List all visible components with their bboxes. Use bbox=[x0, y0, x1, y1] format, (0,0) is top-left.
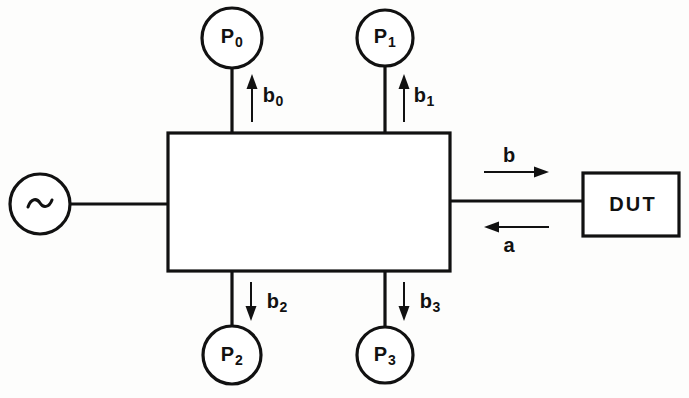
wave-label-b2-base: b bbox=[267, 290, 279, 312]
wave-label-a-base: a bbox=[503, 234, 514, 256]
detector-label-p2-sub: 2 bbox=[235, 353, 243, 369]
detector-label-p0: P0 bbox=[221, 25, 244, 50]
wave-label-b1-sub: 1 bbox=[426, 94, 434, 110]
detector-label-p3: P3 bbox=[374, 343, 397, 368]
detector-label-p2-base: P bbox=[221, 343, 235, 365]
wave-label-b3-base: b bbox=[420, 290, 432, 312]
wave-label-b0: b0 bbox=[263, 84, 284, 109]
wave-label-b3: b3 bbox=[420, 290, 441, 315]
wave-label-a: a bbox=[503, 234, 514, 257]
flow-arrow-b3 bbox=[399, 282, 410, 321]
flow-arrow-b0 bbox=[247, 74, 258, 122]
wave-label-b: b bbox=[503, 144, 515, 167]
flow-arrow-b bbox=[484, 167, 549, 178]
wave-label-b3-sub: 3 bbox=[432, 300, 440, 316]
six-port-junction-box bbox=[168, 133, 450, 271]
detector-label-p0-base: P bbox=[221, 25, 235, 47]
detector-label-p3-sub: 3 bbox=[388, 353, 396, 369]
wave-label-b0-base: b bbox=[263, 84, 275, 106]
detector-label-p1-base: P bbox=[374, 25, 388, 47]
diagram-canvas bbox=[0, 0, 689, 398]
detector-label-p2: P2 bbox=[221, 343, 244, 368]
signal-source-symbol bbox=[10, 174, 70, 234]
detector-label-p1-sub: 1 bbox=[388, 35, 396, 51]
detector-label-p1: P1 bbox=[374, 25, 397, 50]
six-port-reflectometer-diagram: P0 P1 P2 P3 b0 b1 b2 b3 b a DUT bbox=[0, 0, 689, 398]
wave-label-b1: b1 bbox=[414, 84, 435, 109]
wave-label-b2: b2 bbox=[267, 290, 288, 315]
wave-label-b0-sub: 0 bbox=[275, 94, 283, 110]
flow-arrow-b2 bbox=[246, 282, 257, 321]
dut-label: DUT bbox=[609, 193, 657, 216]
flow-arrow-a bbox=[484, 222, 549, 233]
detector-label-p3-base: P bbox=[374, 343, 388, 365]
wave-label-b1-base: b bbox=[414, 84, 426, 106]
wave-label-b2-sub: 2 bbox=[279, 300, 287, 316]
detector-label-p0-sub: 0 bbox=[235, 35, 243, 51]
wave-label-b-base: b bbox=[503, 144, 515, 166]
flow-arrow-b1 bbox=[399, 74, 410, 122]
